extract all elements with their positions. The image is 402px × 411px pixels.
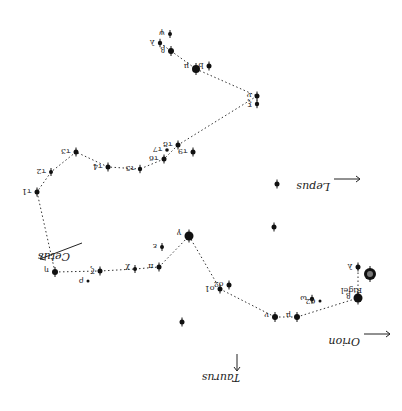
star-tau9: τ9	[178, 147, 196, 157]
constellation-line	[159, 236, 189, 267]
star-zeta: ζ	[90, 266, 103, 276]
star-label: ξ	[247, 99, 252, 108]
constellation-line	[135, 267, 159, 269]
star-tau2: τ2	[36, 167, 53, 176]
star-label: τ7	[153, 145, 163, 154]
star-label: λ	[347, 262, 352, 271]
star-label: ν	[264, 311, 269, 320]
star-label: τ8	[163, 140, 173, 149]
star-label: π	[148, 262, 153, 271]
constellation-line	[178, 96, 257, 145]
star-nu2: ν	[264, 311, 278, 322]
star-label: γ	[177, 229, 182, 238]
star-mu2: μ	[286, 311, 300, 322]
star-tau1: τ1	[22, 187, 40, 197]
star-lambda: λ	[150, 38, 162, 47]
arrow-icon	[234, 354, 240, 371]
star-tau4: τ4	[93, 162, 111, 172]
star-label: τ1	[22, 187, 32, 196]
star-s62: 62	[305, 297, 321, 306]
star-epsilon: ε	[153, 242, 164, 251]
star-label: ε	[153, 242, 157, 251]
arrow-icon	[364, 331, 390, 337]
star-lambda2: λ	[347, 262, 360, 272]
star-rho: ρ	[79, 277, 90, 286]
eridanus-chart: λψβμbνξτ9τ8τ7τ6τ5τ4τ3τ2τ1ηζχπεγο1ο2νμω62…	[0, 0, 402, 411]
star-label: τ4	[93, 162, 103, 171]
star-xi: ξ	[247, 99, 259, 108]
arrow-icon	[334, 176, 360, 182]
star-label: μ	[184, 62, 189, 71]
star-label: μ	[286, 311, 291, 320]
star-label: ο1	[205, 284, 215, 293]
star-label: b	[198, 61, 203, 70]
star-label: ζ	[90, 266, 95, 275]
star-label: τ9	[178, 147, 188, 156]
star-pi: π	[148, 262, 161, 272]
star-psi: ψ	[159, 29, 172, 38]
star-label: β	[160, 45, 165, 54]
star-label: ν	[247, 91, 252, 100]
star-label: Rigel	[341, 286, 362, 295]
constellation-label-lepus: Lepus	[296, 180, 331, 193]
star-label: ψ	[159, 29, 165, 38]
star-tau5: τ5	[125, 164, 142, 173]
star-chart: λψβμbνξτ9τ8τ7τ6τ5τ4τ3τ2τ1ηζχπεγο1ο2νμω62…	[0, 0, 402, 411]
star-mu: μ	[184, 62, 200, 75]
constellation-label-cetus: Cetus	[38, 250, 70, 263]
star-label: ο2	[214, 280, 224, 289]
star-chi: χ	[125, 264, 137, 273]
star-beta: β	[160, 45, 174, 56]
star-eta: η	[44, 266, 58, 277]
star-o2: ο2	[214, 280, 232, 290]
star-label: τ2	[36, 167, 46, 176]
star-label: χ	[125, 264, 130, 273]
star-tau3: τ3	[61, 147, 79, 157]
constellation-line	[171, 51, 196, 69]
star-lone3	[180, 318, 185, 327]
constellation-label-orion: Orion	[328, 335, 360, 348]
star-label: τ3	[61, 147, 71, 156]
star-b: b	[198, 61, 211, 71]
constellation-label-taurus: Taurus	[202, 371, 240, 384]
star-label: ρ	[79, 277, 84, 286]
star-label: λ	[150, 38, 155, 47]
star-label: 62	[305, 297, 315, 306]
star-label: τ5	[125, 164, 135, 173]
star-tau8: τ8	[163, 140, 181, 150]
star-label: η	[44, 266, 49, 275]
star-tau6: τ6	[149, 154, 167, 164]
star-label: τ6	[149, 154, 159, 163]
star-lone2	[272, 223, 277, 232]
star-lone1	[275, 180, 280, 189]
